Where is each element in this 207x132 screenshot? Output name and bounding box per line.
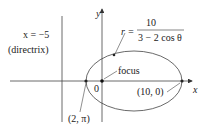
equation-numerator: 10: [146, 17, 156, 28]
left-vertex-point: [84, 79, 87, 82]
equation-lhs: r =: [121, 26, 134, 37]
left-vertex-label: (2, π): [68, 113, 90, 125]
right-vertex-leader: [167, 83, 180, 92]
origin-label: 0: [94, 83, 99, 94]
focus-label: focus: [118, 65, 140, 76]
directrix-label: (directrix): [8, 44, 49, 56]
curve-point: [113, 54, 116, 57]
equation-denominator: 3 − 2 cos θ: [138, 32, 182, 43]
left-vertex-leader: [80, 83, 86, 112]
y-axis-label: y: [95, 8, 101, 19]
right-vertex-point: [180, 79, 183, 82]
x-axis-label: x: [192, 84, 198, 95]
focus-point: [100, 79, 104, 83]
right-vertex-label: (10, 0): [137, 86, 164, 98]
focus-leader: [104, 71, 117, 79]
polar-ellipse-diagram: y x x = −5 (directrix) r = 10 3 − 2 cos …: [0, 0, 207, 132]
directrix-equation: x = −5: [23, 29, 49, 40]
